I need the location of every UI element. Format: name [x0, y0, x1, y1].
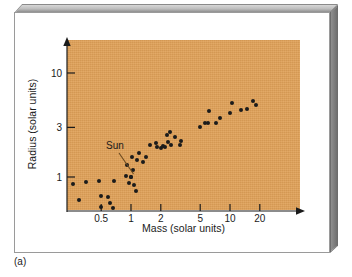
data-point [127, 181, 131, 185]
data-point [135, 158, 139, 162]
data-point [230, 101, 234, 105]
plot-area [67, 40, 300, 210]
sun-annotation-label: Sun [106, 140, 124, 151]
data-point [137, 151, 141, 155]
data-point [163, 145, 167, 149]
data-point [129, 175, 133, 179]
data-point [71, 182, 75, 186]
y-tick-label: 10 [40, 68, 62, 79]
panel-letter: (a) [14, 256, 26, 267]
data-point [112, 179, 116, 183]
plot-paper-texture [67, 40, 300, 210]
data-point [134, 189, 138, 193]
data-point [214, 121, 218, 125]
card-bevel-right [330, 5, 338, 253]
data-point [251, 99, 255, 103]
data-point [130, 155, 134, 159]
data-point [228, 111, 232, 115]
data-point [141, 160, 145, 164]
data-point [131, 168, 135, 172]
data-point [206, 121, 210, 125]
data-point [125, 163, 129, 167]
data-point [106, 195, 110, 199]
data-point [178, 143, 182, 147]
data-point [124, 174, 128, 178]
data-point [239, 108, 243, 112]
data-point [132, 183, 136, 187]
data-point [179, 139, 183, 143]
data-point [173, 135, 177, 139]
x-axis-title: Mass (solar units) [67, 222, 300, 234]
data-point [99, 194, 103, 198]
data-point [108, 201, 112, 205]
data-point [97, 179, 101, 183]
y-tick-label: 3 [40, 122, 62, 133]
data-point [218, 116, 222, 120]
y-axis-title: Radius (solar units) [26, 49, 38, 199]
data-point [168, 130, 172, 134]
data-point [144, 155, 148, 159]
data-point [148, 143, 152, 147]
data-point [111, 206, 115, 210]
y-tick-label: 1 [40, 172, 62, 183]
data-point [207, 109, 211, 113]
data-point [169, 143, 173, 147]
data-point [198, 125, 202, 129]
data-point [245, 107, 249, 111]
data-point [99, 205, 103, 209]
data-point [77, 198, 81, 202]
data-point [254, 103, 258, 107]
data-point [84, 180, 88, 184]
